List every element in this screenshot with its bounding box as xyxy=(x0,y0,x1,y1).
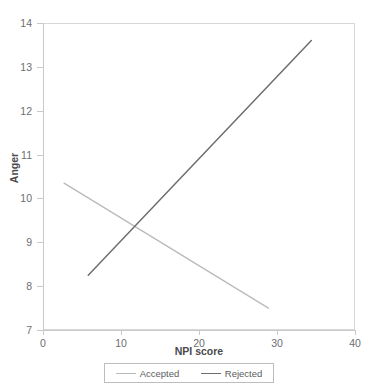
legend-label-rejected: Rejected xyxy=(225,368,263,379)
y-tick-label-9: 9 xyxy=(8,236,32,248)
x-tick-mark xyxy=(43,330,44,335)
legend-swatch-rejected xyxy=(201,373,221,374)
legend-label-accepted: Accepted xyxy=(140,368,180,379)
y-axis-line xyxy=(43,23,44,330)
y-tick-label-7: 7 xyxy=(8,324,32,336)
y-tick-label-13: 13 xyxy=(8,61,32,73)
y-axis-title: Anger xyxy=(8,138,20,198)
x-tick-mark xyxy=(277,330,278,335)
x-tick-mark xyxy=(121,330,122,335)
y-tick-label-8: 8 xyxy=(8,280,32,292)
y-tick-mark xyxy=(37,67,43,68)
y-tick-mark xyxy=(37,242,43,243)
x-tick-mark xyxy=(355,330,356,335)
x-axis-title: NPI score xyxy=(43,345,355,357)
y-tick-label-14: 14 xyxy=(8,17,32,29)
y-tick-mark xyxy=(37,111,43,112)
y-tick-mark xyxy=(37,155,43,156)
y-tick-label-12: 12 xyxy=(8,105,32,117)
y-tick-mark xyxy=(37,23,43,24)
legend: Accepted Rejected xyxy=(104,363,274,383)
y-tick-mark xyxy=(37,286,43,287)
chart-container: 14 13 12 11 10 9 8 7 0 10 20 30 40 Anger… xyxy=(0,0,369,390)
legend-item-accepted: Accepted xyxy=(116,368,180,379)
y-tick-mark xyxy=(37,198,43,199)
legend-swatch-accepted xyxy=(116,373,136,374)
x-tick-mark xyxy=(199,330,200,335)
legend-item-rejected: Rejected xyxy=(201,368,263,379)
plot-area-frame xyxy=(43,23,355,330)
